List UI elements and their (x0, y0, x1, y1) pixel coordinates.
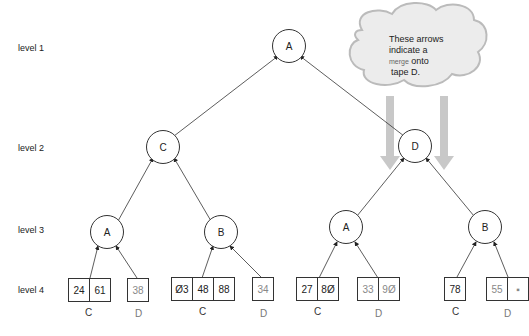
tape-label: C (314, 306, 321, 317)
tree-node: B (468, 210, 502, 244)
tape-label: C (452, 306, 459, 317)
tape-label: D (375, 308, 382, 319)
run-box: 34 (252, 277, 274, 301)
run-value: 33 (357, 277, 379, 301)
run-value: ▪ (507, 277, 529, 301)
run-box: 33 9Ø (357, 277, 400, 301)
callout-merge-word: merge (389, 58, 409, 65)
level-label: level 1 (18, 43, 44, 53)
tape-label: D (260, 308, 267, 319)
run-box: 24 61 (68, 278, 111, 302)
run-box: Ø3 48 88 (171, 277, 235, 301)
run-box: 55 ▪ (486, 277, 529, 301)
run-value: 55 (486, 277, 508, 301)
callout-line-rest: onto (409, 56, 429, 66)
tape-label: C (199, 306, 206, 317)
tape-label: C (85, 307, 92, 318)
run-value: 9Ø (378, 277, 400, 301)
run-value: 88 (213, 277, 235, 301)
callout-line: tape D. (389, 67, 469, 78)
run-value: 61 (89, 278, 111, 302)
run-value: 78 (444, 277, 466, 301)
callout-text: These arrows indicate a merge onto tape … (389, 34, 469, 78)
tree-node: D (398, 129, 432, 163)
tree-node: A (90, 215, 124, 249)
run-value: Ø3 (171, 277, 193, 301)
tape-label: D (135, 308, 142, 319)
run-value: 48 (192, 277, 214, 301)
run-value: 8Ø (317, 277, 339, 301)
run-box: 38 (127, 278, 149, 302)
run-value: 27 (296, 277, 318, 301)
run-box: 78 (444, 277, 466, 301)
tree-node: C (146, 130, 180, 164)
tree-node: A (272, 29, 306, 63)
run-value: 34 (252, 277, 274, 301)
callout-line: merge onto (389, 56, 469, 67)
tree-node: B (204, 215, 238, 249)
callout-line: indicate a (389, 45, 469, 56)
tree-node: A (329, 210, 363, 244)
run-value: 38 (127, 278, 149, 302)
level-label: level 2 (18, 143, 44, 153)
level-label: level 3 (18, 225, 44, 235)
tape-label: D (504, 308, 511, 319)
run-box: 27 8Ø (296, 277, 339, 301)
callout-line: These arrows (389, 34, 469, 45)
run-value: 24 (68, 278, 90, 302)
level-label: level 4 (18, 285, 44, 295)
